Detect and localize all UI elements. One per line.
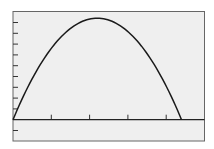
parabola-chart: [0, 0, 214, 149]
plot-area: [13, 12, 205, 142]
